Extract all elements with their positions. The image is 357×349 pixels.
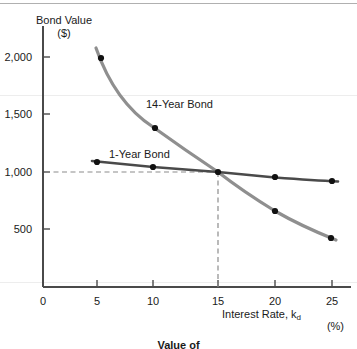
x-tick-label-20: 20: [260, 295, 290, 307]
y-tick-label-1500: 1,500: [0, 108, 32, 120]
y-axis-title: Bond Value: [21, 14, 107, 27]
series-line-14-year-bond: [96, 48, 336, 240]
y-tick-label-2000: 2,000: [0, 51, 32, 63]
data-point-14y-10: [152, 125, 158, 131]
x-tick-label-25: 25: [317, 295, 347, 307]
y-tick-label-1000: 1,000: [0, 166, 32, 178]
data-point-14y-20: [272, 208, 278, 214]
y-tick-label-500: 500: [0, 223, 32, 235]
x-axis-unit-label: (%): [222, 320, 344, 333]
x-tick-label-10: 10: [138, 295, 168, 307]
data-point-14y-25: [328, 235, 334, 241]
figure-caption: Value of: [0, 339, 357, 349]
data-point-14y-15: [215, 169, 221, 175]
series-label-14-year-bond: 14-Year Bond: [146, 98, 213, 110]
data-point-1y-20: [272, 174, 278, 180]
chart-figure: Bond Value ($) Interest Rate, kd (%) 2,0…: [0, 0, 357, 349]
data-point-1y-10: [150, 164, 156, 170]
data-point-14y-5: [98, 55, 104, 61]
series-label-1-year-bond: 1-Year Bond: [109, 148, 170, 160]
data-point-1y-25: [329, 178, 335, 184]
y-axis-unit-label: ($): [21, 27, 107, 40]
x-tick-label-5: 5: [82, 295, 112, 307]
x-tick-label-0: 0: [28, 295, 58, 307]
x-tick-label-15: 15: [203, 295, 233, 307]
data-point-1y-5: [94, 159, 100, 165]
x-axis-title-text: Interest Rate, k: [222, 308, 297, 320]
